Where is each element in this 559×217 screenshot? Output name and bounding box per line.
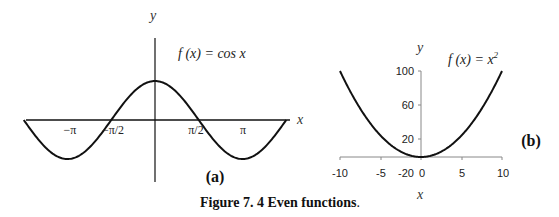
panel-a-cosine-plot: y x f (x) = cos x −π −π/2 π/2 π (a) bbox=[24, 8, 304, 186]
figure-caption: Figure 7. 4 Even functions. bbox=[200, 195, 360, 210]
panel-a-label: (a) bbox=[206, 168, 225, 186]
panel-b-ytick-20: 20 bbox=[402, 133, 414, 145]
panel-b-ytick-60: 60 bbox=[402, 99, 414, 111]
panel-a-tick-neg-half-pi: −π/2 bbox=[102, 123, 124, 137]
figure: y x f (x) = cos x −π −π/2 π/2 π (a) y x … bbox=[0, 0, 559, 217]
panel-a-y-label: y bbox=[148, 8, 157, 23]
panel-b-xtick-neg5: -5 bbox=[376, 167, 386, 179]
panel-b-ytick-neg20: -20 bbox=[398, 167, 414, 179]
panel-b-xtick-0: 0 bbox=[419, 167, 425, 179]
panel-b-parabola-plot: y x f (x) = x2 100 60 20 -20 -10 -5 0 5 … bbox=[332, 40, 541, 202]
panel-b-y-label: y bbox=[415, 40, 424, 55]
panel-a-tick-pi: π bbox=[240, 123, 246, 137]
panel-b-x-label: x bbox=[416, 187, 424, 202]
panel-b-xtick-5: 5 bbox=[459, 167, 465, 179]
panel-a-tick-neg-pi: −π bbox=[64, 123, 77, 137]
panel-b-function-label: f (x) = x2 bbox=[448, 50, 499, 68]
panel-b-xtick-neg10: -10 bbox=[332, 167, 348, 179]
panel-a-x-label: x bbox=[296, 112, 304, 127]
panel-a-function-label: f (x) = cos x bbox=[178, 46, 247, 62]
panel-b-label: (b) bbox=[521, 132, 541, 150]
panel-a-tick-half-pi: π/2 bbox=[188, 123, 203, 137]
panel-b-ytick-100: 100 bbox=[396, 65, 414, 77]
panel-b-xtick-10: 10 bbox=[497, 167, 509, 179]
